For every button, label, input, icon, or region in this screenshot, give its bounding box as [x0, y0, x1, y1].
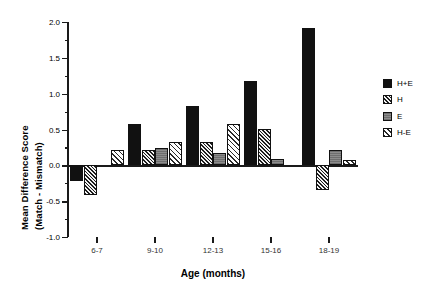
bar-he-15-16 [244, 81, 257, 165]
legend-item-h[interactable]: H [383, 92, 429, 109]
x-tick-label: 12-13 [203, 246, 223, 255]
zero-baseline [68, 165, 358, 166]
chart-figure: Mean Difference Score (Match - Mismatch)… [0, 0, 431, 302]
legend-label: E [397, 112, 402, 121]
x-tick [212, 237, 213, 243]
legend-item-he[interactable]: H-E [383, 125, 429, 142]
bar-h-18-19 [316, 165, 329, 189]
y-tick-label: 1.5 [49, 53, 60, 62]
y-tick-major [62, 237, 68, 238]
legend-swatch-icon [383, 79, 392, 88]
y-tick-minor [65, 112, 69, 113]
bar-h-12-13 [200, 142, 213, 165]
legend-item-e[interactable]: E [383, 108, 429, 125]
x-tick [96, 237, 97, 243]
bar-e-15-16 [271, 159, 284, 165]
y-axis-title-line2: (Match - Mismatch) [33, 142, 44, 230]
y-tick-label: 0.0 [49, 161, 60, 170]
bar-he-12-13 [227, 124, 240, 166]
x-tick [154, 237, 155, 243]
y-tick-minor [65, 76, 69, 77]
y-tick-major [62, 22, 68, 23]
bar-h-6-7 [84, 165, 97, 195]
y-tick-label: -0.5 [46, 197, 60, 206]
bar-he-18-19 [343, 160, 356, 165]
bar-he-18-19 [302, 28, 315, 166]
x-tick-label: 18-19 [319, 246, 339, 255]
legend-label: H-E [397, 128, 411, 137]
legend-swatch-icon [383, 128, 392, 137]
y-tick-label: 1.0 [49, 89, 60, 98]
y-tick-minor [65, 147, 69, 148]
bar-h-15-16 [258, 129, 271, 166]
legend-label: H [397, 95, 403, 104]
x-tick-label: 9-10 [147, 246, 163, 255]
x-tick [270, 237, 271, 243]
bar-e-18-19 [329, 150, 342, 166]
x-tick-label: 15-16 [261, 246, 281, 255]
y-tick-label: 2.0 [49, 18, 60, 27]
y-tick-major [62, 58, 68, 59]
bar-he-9-10 [169, 142, 182, 165]
y-tick-major [62, 165, 68, 166]
y-tick-label: -1.0 [46, 233, 60, 242]
bar-he-12-13 [186, 106, 199, 165]
legend-label: H+E [397, 79, 413, 88]
y-tick-major [62, 201, 68, 202]
plot-area: 2.01.51.00.50.0-0.5-1.0 6-79-1012-1315-1… [68, 22, 358, 237]
bar-h-9-10 [142, 150, 155, 166]
y-tick-minor [65, 219, 69, 220]
x-tick-label: 6-7 [91, 246, 103, 255]
bar-e-9-10 [155, 148, 168, 165]
bar-he-9-10 [128, 124, 141, 166]
x-tick [328, 237, 329, 243]
legend-item-he[interactable]: H+E [383, 75, 429, 92]
y-tick-major [62, 130, 68, 131]
y-tick-major [62, 94, 68, 95]
bar-e-12-13 [213, 153, 226, 165]
legend-swatch-icon [383, 112, 392, 121]
y-axis-title: Mean Difference Score (Match - Mismatch) [6, 18, 40, 238]
y-axis-title-line1: Mean Difference Score [19, 125, 30, 230]
x-axis-title: Age (months) [68, 268, 358, 279]
chart-legend: H+EHEH-E [383, 75, 429, 141]
y-tick-label: 0.5 [49, 125, 60, 134]
bar-he-6-7 [70, 165, 83, 181]
bar-he-6-7 [111, 150, 124, 166]
y-tick-minor [65, 183, 69, 184]
y-tick-minor [65, 40, 69, 41]
legend-swatch-icon [383, 95, 392, 104]
